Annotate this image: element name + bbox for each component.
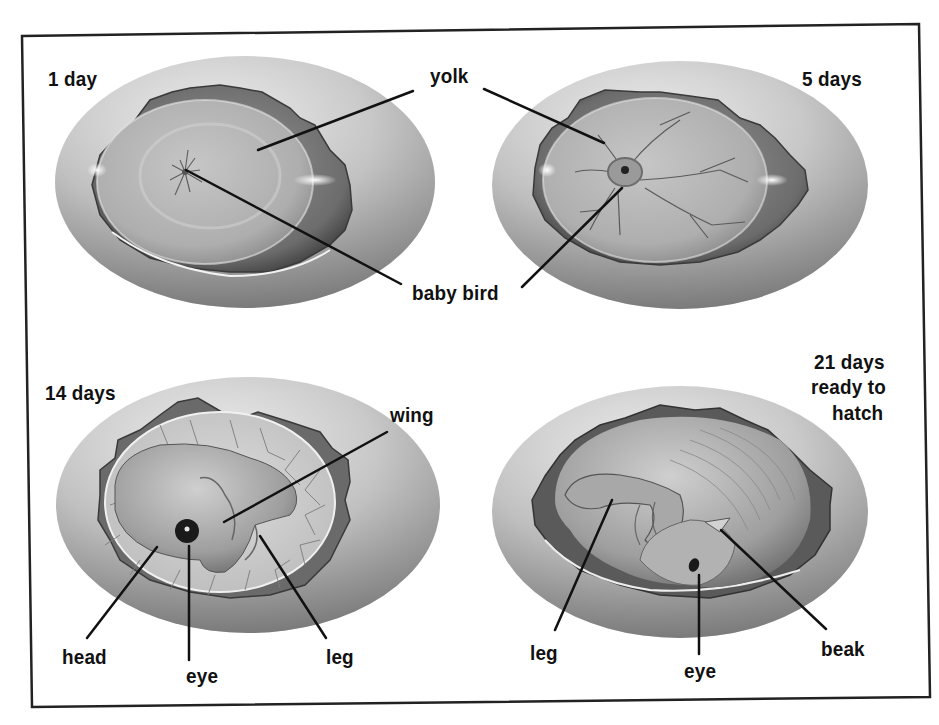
stage-label-day-21-line-3: hatch [832,401,883,425]
callout-wing: wing [390,403,434,427]
stage-label-day-5: 5 days [802,67,862,91]
embryo [621,166,629,174]
stage-label-day-21-line-2: ready to [811,375,886,399]
callout-eye-day-21: eye [684,659,716,683]
egg-day-1 [55,56,435,308]
callout-leg-day-14: leg [326,645,354,669]
egg-day-5 [492,61,868,309]
egg-development-diagram: 1 day 5 days 14 days 21 days ready to ha… [0,0,939,725]
egg-day-21 [492,386,868,638]
callout-eye-day-14: eye [186,664,218,688]
stage-label-day-1: 1 day [48,67,97,91]
callout-leg-day-21: leg [530,641,558,665]
callout-baby-bird: baby bird [412,281,499,305]
diagram-artwork [0,0,939,725]
egg-day-14 [56,377,440,633]
stage-label-day-21-line-1: 21 days [814,350,885,374]
callout-head: head [62,645,107,669]
callout-beak: beak [821,637,865,661]
callout-yolk: yolk [430,64,469,88]
stage-label-day-14: 14 days [45,381,116,405]
